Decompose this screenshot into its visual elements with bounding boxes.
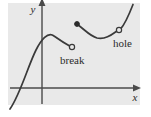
filled-dot-segment-start [75, 22, 80, 27]
figure-container: y x break hole [0, 0, 151, 117]
y-axis-label: y [30, 3, 36, 15]
x-axis-label: x [132, 91, 138, 103]
open-circle-break-endpoint [69, 44, 74, 49]
discontinuity-graph-svg: y x break hole [0, 0, 151, 117]
hole-label: hole [113, 37, 132, 49]
break-label: break [60, 54, 85, 66]
open-circle-hole [116, 27, 121, 32]
